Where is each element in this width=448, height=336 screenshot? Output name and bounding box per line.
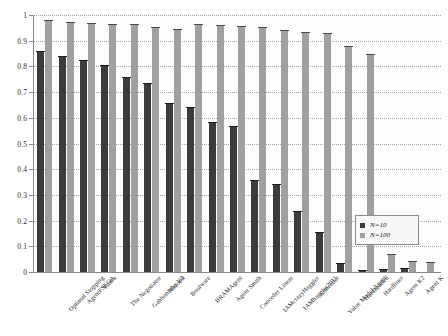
bar-body <box>59 57 66 272</box>
error-bar-cap <box>122 77 131 78</box>
error-bar-cap <box>366 54 375 55</box>
bar <box>67 15 74 272</box>
bar <box>259 15 266 272</box>
bar-group <box>248 15 269 272</box>
legend-item: N=100 <box>360 231 414 239</box>
bar-body <box>359 271 366 272</box>
bar-body <box>401 269 408 272</box>
bar <box>59 15 66 272</box>
bar-body <box>101 66 108 272</box>
y-axis: 00.10.20.30.40.50.60.70.80.91 <box>0 0 33 290</box>
chart-legend: N=10 N=100 <box>355 215 419 245</box>
bar-group <box>184 15 205 272</box>
error-bar-cap <box>379 269 388 270</box>
bar-group <box>420 15 441 272</box>
bar <box>294 15 301 272</box>
bar <box>427 15 434 272</box>
bar-group <box>227 15 248 272</box>
bar-body <box>174 30 181 272</box>
y-axis-tick-label: 0.7 <box>17 88 27 97</box>
y-axis-tick-label: 0.6 <box>17 113 27 122</box>
bar-body <box>67 23 74 272</box>
bar-body <box>281 31 288 272</box>
error-bar-cap <box>194 24 203 25</box>
error-bar-cap <box>87 23 96 24</box>
error-bar-cap <box>79 60 88 61</box>
bar <box>209 15 216 272</box>
bar-group <box>163 15 184 272</box>
x-axis-labels: Optimal StoppingAgentFSEGAYushuThe Negot… <box>33 274 440 336</box>
bar-body <box>273 185 280 272</box>
error-bar-cap <box>293 211 302 212</box>
bar-body <box>427 263 434 272</box>
bar <box>230 15 237 272</box>
error-bar-cap <box>44 20 53 21</box>
bar-body <box>80 61 87 272</box>
bar <box>345 15 352 272</box>
error-bar-cap <box>301 32 310 33</box>
y-axis-tick-label: 0.3 <box>17 190 27 199</box>
error-bar-cap <box>186 107 195 108</box>
bar <box>217 15 224 272</box>
legend-label-n10: N=10 <box>370 221 386 229</box>
x-axis-tick-label: Boulware <box>189 274 212 297</box>
bar-body <box>337 264 344 272</box>
error-bar-cap <box>272 184 281 185</box>
bar-body <box>187 108 194 272</box>
bar-body <box>409 262 416 272</box>
y-axis-tick-label: 0.8 <box>17 62 27 71</box>
bar-group <box>98 15 119 272</box>
bar-body <box>324 34 331 272</box>
bar <box>109 15 116 272</box>
bar-body <box>345 47 352 272</box>
bar-body <box>302 33 309 272</box>
x-axis-tick-label: Agent K2 <box>403 274 426 297</box>
bar-body <box>388 255 395 272</box>
bar <box>302 15 309 272</box>
bar <box>195 15 202 272</box>
bar <box>101 15 108 272</box>
bar-group <box>34 15 55 272</box>
y-axis-tick-label: 1 <box>23 11 27 20</box>
legend-label-n100: N=100 <box>370 231 390 239</box>
error-bar-cap <box>143 83 152 84</box>
bar <box>251 15 258 272</box>
bar-body <box>144 84 151 272</box>
bar-body <box>251 181 258 272</box>
error-bar-cap <box>208 122 217 123</box>
y-axis-tick-label: 0.2 <box>17 216 27 225</box>
y-axis-tick-label: 0.1 <box>17 242 27 251</box>
bar-body <box>37 52 44 272</box>
y-axis-tick-label: 0.4 <box>17 165 27 174</box>
bar <box>88 15 95 272</box>
y-axis-tick-label: 0.9 <box>17 36 27 45</box>
error-bar-cap <box>58 56 67 57</box>
error-bar-cap <box>408 261 417 262</box>
error-bar-cap <box>280 30 289 31</box>
bar-body <box>109 25 116 272</box>
error-bar-cap <box>250 180 259 181</box>
error-bar-cap <box>400 268 409 269</box>
error-bar-cap <box>151 27 160 28</box>
error-bar-cap <box>36 51 45 52</box>
y-axis-tick-label: 0.5 <box>17 139 27 148</box>
bar <box>174 15 181 272</box>
bar <box>316 15 323 272</box>
error-bar-cap <box>258 27 267 28</box>
error-bar-cap <box>66 22 75 23</box>
bar-group <box>205 15 226 272</box>
error-bar-cap <box>229 126 238 127</box>
bar-group <box>270 15 291 272</box>
legend-swatch-n100 <box>360 233 365 238</box>
error-bar-cap <box>165 103 174 104</box>
error-bar-cap <box>173 29 182 30</box>
bar <box>144 15 151 272</box>
bar-body <box>217 26 224 272</box>
bar-group <box>120 15 141 272</box>
bar <box>80 15 87 272</box>
error-bar-cap <box>336 263 345 264</box>
bar <box>187 15 194 272</box>
bar <box>337 15 344 272</box>
bar-group <box>312 15 333 272</box>
error-bar-cap <box>100 65 109 66</box>
